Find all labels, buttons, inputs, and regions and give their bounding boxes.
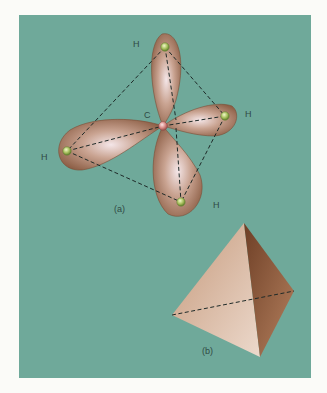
hydrogen-atom-left: [63, 147, 71, 155]
atom-label-h-bottom: H: [213, 200, 220, 210]
methane-diagram: [0, 0, 327, 393]
atom-label-c: C: [144, 110, 151, 120]
part-b-label: (b): [202, 346, 213, 356]
hydrogen-atom-top: [161, 43, 169, 51]
lobe-left: [59, 119, 163, 170]
orbital-lobes: [59, 34, 237, 217]
hydrogen-atom-bottom: [177, 198, 185, 206]
part-a-label: (a): [114, 204, 125, 214]
tetrahedron: [172, 223, 294, 357]
atom-label-h-top: H: [133, 39, 140, 49]
atom-label-h-right: H: [245, 109, 252, 119]
hydrogen-atom-right: [221, 112, 229, 120]
atom-label-h-left: H: [41, 152, 48, 162]
carbon-atom: [159, 122, 168, 131]
